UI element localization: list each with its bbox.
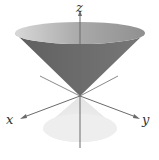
y-axis-arrow-icon xyxy=(133,114,140,119)
y-axis-label: y xyxy=(141,112,150,127)
x-axis-label: x xyxy=(6,112,14,127)
double-cone-diagram: z x y xyxy=(0,0,159,160)
x-axis-arrow-icon xyxy=(20,114,27,119)
z-axis-label: z xyxy=(75,0,83,15)
